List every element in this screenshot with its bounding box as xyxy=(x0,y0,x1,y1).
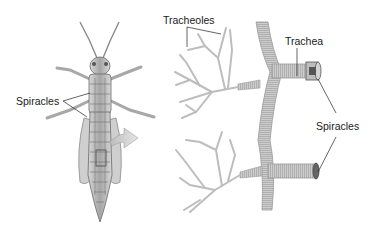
spiracles-label-left: Spiracles xyxy=(16,96,59,107)
spiracles-leader-right-lower xyxy=(318,137,336,172)
diagram: Spiracles Tracheoles Trachea Spiracles xyxy=(0,0,375,233)
spiracles-label-right: Spiracles xyxy=(316,121,359,132)
spiracles-leader-right-upper xyxy=(318,79,336,113)
grasshopper-illustration xyxy=(47,22,154,222)
tracheal-system-illustration xyxy=(175,22,321,212)
spiracles-leader-left xyxy=(63,93,90,117)
tracheoles-label: Tracheoles xyxy=(163,15,215,26)
trachea-label: Trachea xyxy=(285,36,323,47)
